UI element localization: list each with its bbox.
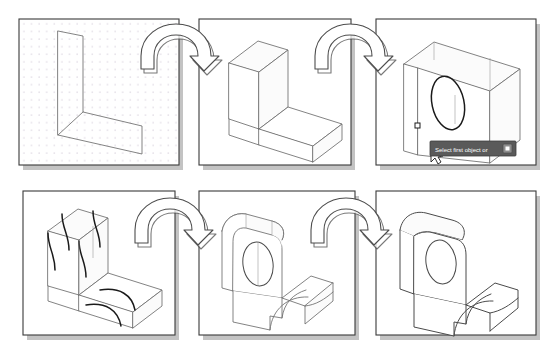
tooltip-option-glyph [506, 147, 510, 151]
tutorial-sequence-svg: Select first object or [0, 0, 559, 355]
tooltip-label: Select first object or [435, 147, 488, 153]
command-tooltip: Select first object or [430, 141, 516, 156]
snap-marker [415, 123, 420, 128]
figure-canvas: Select first object or [0, 0, 559, 355]
